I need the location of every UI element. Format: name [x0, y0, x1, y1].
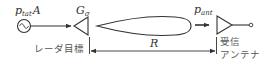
received-power-label: pant	[194, 3, 213, 17]
receive-antenna-triangle-icon	[217, 16, 232, 34]
radiation-lobe-shape	[97, 17, 191, 36]
radar-equation-diagram: ptatA Gσ pant R レーダ目標 受信 アンテナ	[0, 0, 274, 62]
receiver-label-line1: 受信	[220, 36, 240, 47]
target-gain-label: Gσ	[76, 4, 90, 18]
radar-target-label: レーダ目標	[34, 43, 84, 54]
receiver-label-line2: アンテナ	[220, 49, 260, 60]
target-antenna-triangle-icon	[74, 17, 88, 35]
source-power-label: ptatA	[15, 4, 41, 18]
distance-label: R	[149, 37, 158, 50]
output-terminal-icon	[249, 23, 253, 27]
ac-source-icon	[18, 20, 31, 33]
